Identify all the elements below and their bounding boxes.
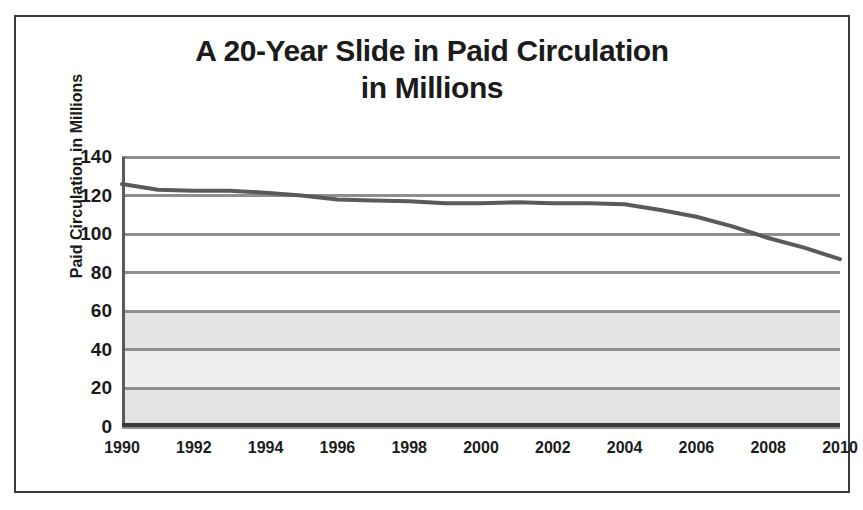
- x-tick-label: 2000: [463, 439, 499, 457]
- y-tick-label: 60: [91, 300, 112, 322]
- y-tick-label: 120: [80, 185, 112, 207]
- x-tick-label: 1992: [176, 439, 212, 457]
- x-tick-label: 1990: [104, 439, 140, 457]
- chart-title: A 20-Year Slide in Paid Circulation in M…: [16, 33, 848, 106]
- y-tick-label: 20: [91, 377, 112, 399]
- x-tick-label: 1998: [391, 439, 427, 457]
- x-tick-label: 1994: [248, 439, 284, 457]
- y-tick-label: 140: [80, 146, 112, 168]
- y-tick-label: 40: [91, 339, 112, 361]
- x-tick-label: 2006: [679, 439, 715, 457]
- series-paid-circulation: [122, 184, 840, 259]
- chart-title-line-2: in Millions: [16, 70, 848, 107]
- y-tick-label: 100: [80, 223, 112, 245]
- y-tick-label: 80: [91, 262, 112, 284]
- x-tick-label: 2010: [822, 439, 858, 457]
- series-line-chart: [122, 157, 840, 427]
- x-tick-label: 2004: [607, 439, 643, 457]
- chart-frame: A 20-Year Slide in Paid Circulation in M…: [14, 15, 850, 493]
- x-tick-label: 2008: [750, 439, 786, 457]
- y-axis-title: Paid Circulation in Millions: [68, 41, 90, 311]
- x-tick-label: 1996: [320, 439, 356, 457]
- x-tick-label: 2002: [535, 439, 571, 457]
- y-tick-label: 0: [101, 416, 112, 438]
- chart-title-line-1: A 20-Year Slide in Paid Circulation: [16, 33, 848, 70]
- plot-area: 140120100806040200 199019921994199619982…: [122, 157, 840, 427]
